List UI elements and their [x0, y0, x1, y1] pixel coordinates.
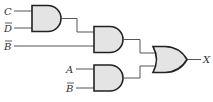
input-label-b-not-bottom: B — [65, 83, 74, 94]
wire-and1-to-and2 — [62, 19, 94, 33]
input-label-d-not: D — [3, 23, 12, 34]
and-gate-2 — [94, 27, 123, 53]
svg-text:B: B — [65, 83, 73, 94]
input-label-c: C — [4, 6, 12, 17]
input-label-a: A — [65, 64, 73, 75]
svg-text:D: D — [3, 23, 12, 34]
input-label-b-not-top: B — [3, 41, 12, 52]
svg-text:B: B — [3, 41, 11, 52]
wire-and3-to-or — [124, 66, 157, 78]
logic-circuit-diagram: C D B A B X — [0, 0, 213, 102]
and-gate-3 — [94, 65, 123, 91]
or-gate — [153, 47, 187, 73]
and-gate-1 — [32, 6, 61, 32]
output-label-x: X — [202, 54, 211, 65]
